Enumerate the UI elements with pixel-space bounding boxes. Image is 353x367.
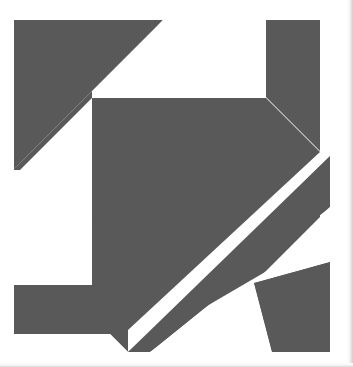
lower-left-white-rectangle: [14, 170, 92, 285]
document-page: concerning the circle.: [0, 0, 353, 367]
right-margin-mask: [330, 0, 353, 367]
left-margin-mask: [0, 0, 14, 367]
figure-container: [0, 0, 353, 367]
abstract-geometric-figure: [0, 0, 353, 367]
top-margin-mask: [0, 0, 353, 20]
bottom-margin-mask: [0, 352, 353, 367]
bottom-left-margin-mask: [14, 334, 110, 352]
upper-right-margin-mask: [320, 20, 330, 152]
